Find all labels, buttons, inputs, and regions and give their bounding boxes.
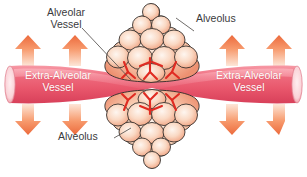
alveolus-lower-cluster [105, 90, 199, 169]
arrow-up-icon [62, 35, 88, 66]
arrow-down-icon [219, 104, 245, 135]
arrow-up-icon [266, 35, 292, 66]
arrow-up-icon [219, 35, 245, 66]
leader-line-alveolus-top [176, 18, 194, 31]
arrow-up-icon [15, 35, 41, 66]
arrow-down-icon [15, 104, 41, 135]
arrow-down-icon [62, 104, 88, 135]
diagram-canvas [0, 0, 307, 177]
arrow-down-icon [266, 104, 285, 135]
alveolus-upper-cluster [105, 4, 199, 83]
anatomy-figure: Alveolar Vessel Alveolus Alveolus Extra-… [0, 0, 307, 177]
